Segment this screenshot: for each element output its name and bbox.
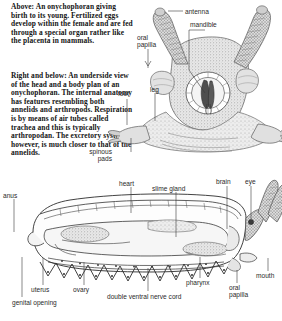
label-anus: anus [3, 192, 17, 199]
pharynx-organ [183, 242, 227, 256]
label-mandible: mandible [190, 21, 217, 28]
label-eye: eye [245, 178, 256, 185]
onychophoran-figure-plate: Above: An onychophoran giving birth to i… [0, 0, 282, 321]
label-foot: foot [118, 90, 129, 97]
label-mouth: mouth [256, 272, 274, 279]
label-oral-papilla-body: oral papilla [229, 284, 248, 299]
label-leg: leg [150, 86, 159, 93]
oral-papilla-right [236, 69, 258, 93]
label-pharynx: pharynx [186, 279, 209, 286]
label-nerve-cord: double ventral nerve cord [107, 293, 181, 300]
label-heart: heart [119, 180, 134, 187]
antenna-right [234, 6, 271, 68]
body-illustration [28, 180, 282, 281]
label-antenna: antenna [185, 8, 209, 15]
label-spinous-pads: spinous pads [72, 148, 112, 163]
label-slime-gland: slime gland [152, 185, 185, 192]
label-uterus: uterus [31, 286, 49, 293]
mouth-opening [186, 72, 230, 114]
label-ovary: ovary [73, 286, 89, 293]
label-brain: brain [216, 178, 231, 185]
antenna-left [153, 8, 188, 64]
leg-left [108, 126, 150, 144]
label-oral-papilla: oral papilla [137, 34, 156, 49]
label-genital-opening: genital opening [12, 299, 57, 306]
